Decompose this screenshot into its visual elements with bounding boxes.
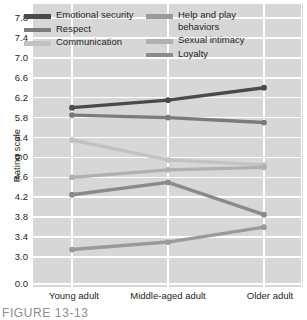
- data-point: [261, 224, 267, 230]
- legend-item[interactable]: Respect: [24, 23, 146, 35]
- legend-swatch-icon: [146, 53, 173, 58]
- data-point: [165, 167, 171, 173]
- legend-swatch-icon: [24, 14, 51, 19]
- x-axis-tick-labels: Young adultMiddle-aged adultOlder adult: [31, 290, 303, 304]
- legend-label: Sexual intimacy: [178, 34, 245, 46]
- y-axis-tick-label: 5.8: [15, 113, 28, 123]
- y-axis-tick-label: 6.2: [15, 93, 28, 103]
- series-line: [72, 182, 264, 214]
- legend-column-right: Help and play behaviorsSexual intimacyLo…: [146, 9, 270, 59]
- figure-root: Rating scale 7.87.47.06.66.25.85.45.04.6…: [0, 0, 307, 320]
- data-point: [69, 137, 75, 143]
- y-axis-tick-label: 6.6: [15, 73, 28, 83]
- x-axis-tick-label: Older adult: [247, 290, 293, 302]
- legend-item[interactable]: Communication: [24, 36, 146, 48]
- series-sexual-intimacy: [69, 164, 267, 180]
- legend-label: Communication: [56, 36, 122, 48]
- y-axis-tick-label: 4.6: [15, 172, 28, 182]
- legend-item[interactable]: Emotional security: [24, 9, 146, 21]
- data-point: [261, 85, 267, 91]
- data-point: [261, 164, 267, 170]
- data-point: [69, 112, 75, 118]
- series-respect: [69, 112, 267, 125]
- chart-legend: Emotional securityRespectCommunication H…: [24, 9, 270, 59]
- data-point: [69, 174, 75, 180]
- legend-label: Respect: [56, 23, 91, 35]
- data-point: [165, 97, 171, 103]
- legend-swatch-icon: [146, 14, 173, 19]
- series-loyalty: [69, 179, 267, 217]
- data-point: [69, 105, 75, 111]
- series-help-and-play-behaviors: [69, 224, 267, 252]
- legend-column-left: Emotional securityRespectCommunication: [24, 9, 146, 59]
- legend-swatch-icon: [146, 39, 173, 44]
- legend-label: Loyalty: [178, 48, 208, 60]
- legend-item[interactable]: Help and play behaviors: [146, 9, 270, 32]
- y-axis-tick-label: 0.0: [15, 279, 28, 289]
- series-line: [72, 227, 264, 249]
- y-axis-tick-label: 3.4: [15, 232, 28, 242]
- legend-label: Emotional security: [56, 9, 134, 21]
- data-point: [261, 212, 267, 218]
- data-point: [165, 239, 171, 245]
- series-emotional-security: [69, 85, 267, 111]
- legend-item[interactable]: Loyalty: [146, 48, 270, 60]
- data-point: [165, 179, 171, 185]
- series-communication: [69, 137, 267, 168]
- x-axis-tick-label: Young adult: [49, 290, 99, 302]
- y-axis-tick-label: 5.0: [15, 152, 28, 162]
- data-point: [165, 115, 171, 121]
- legend-label: Help and play behaviors: [178, 9, 270, 32]
- y-axis-tick-label: 3.8: [15, 212, 28, 222]
- y-axis-tick-label: 5.4: [15, 133, 28, 143]
- data-point: [165, 157, 171, 163]
- legend-swatch-icon: [24, 41, 51, 46]
- y-axis-tick-label: 3.0: [15, 252, 28, 262]
- legend-item[interactable]: Sexual intimacy: [146, 34, 270, 46]
- data-point: [261, 120, 267, 126]
- y-axis-tick-label: 4.2: [15, 192, 28, 202]
- legend-swatch-icon: [24, 28, 51, 33]
- figure-caption: FIGURE 13-13: [2, 307, 89, 320]
- x-axis-tick-label: Middle-aged adult: [130, 290, 206, 302]
- data-point: [69, 247, 75, 253]
- data-point: [69, 192, 75, 198]
